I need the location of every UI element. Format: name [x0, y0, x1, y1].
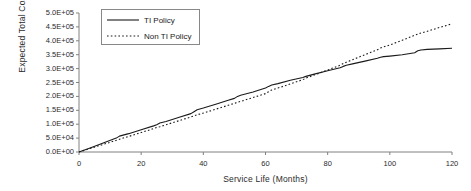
- legend-label-ti-policy: TI Policy: [144, 16, 175, 25]
- chart-legend: TI Policy Non TI Policy: [101, 9, 200, 45]
- plot-area: [0, 0, 471, 191]
- chart-figure: Expected Total Cost 0.0E+005.0E+041.0E+0…: [0, 0, 471, 191]
- legend-item-non-ti-policy: Non TI Policy: [102, 28, 199, 44]
- dotted-line-icon: [106, 31, 140, 41]
- solid-line-icon: [106, 15, 140, 25]
- series-line-ti-policy: [79, 48, 452, 152]
- x-axis-title: Service Life (Months): [79, 174, 452, 184]
- legend-item-ti-policy: TI Policy: [102, 12, 199, 28]
- legend-label-non-ti-policy: Non TI Policy: [144, 32, 191, 41]
